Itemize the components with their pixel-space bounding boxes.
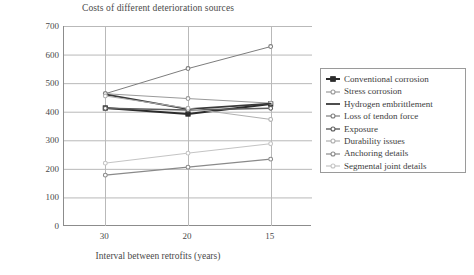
legend-swatch-graphic xyxy=(326,149,340,159)
legend-swatch-graphic xyxy=(326,161,340,171)
data-point-marker xyxy=(269,106,273,110)
legend-marker xyxy=(331,139,335,143)
data-point-marker xyxy=(186,112,190,116)
data-point-marker xyxy=(186,106,190,110)
y-tick-label: 600 xyxy=(25,50,59,60)
x-axis-title: Interval between retrofits (years) xyxy=(0,251,316,261)
legend-item-label: Conventional corrosion xyxy=(344,73,429,85)
legend-line-swatch-icon xyxy=(326,149,340,159)
legend-marker xyxy=(331,90,335,94)
legend-swatch-graphic xyxy=(326,136,340,146)
legend-line-swatch-icon xyxy=(326,111,340,121)
legend-item-label: Loss of tendon force xyxy=(344,110,418,122)
legend-line-swatch-icon xyxy=(326,136,340,146)
legend-item[interactable]: Stress corrosion xyxy=(326,85,460,97)
y-tick-label: 500 xyxy=(25,78,59,88)
chart-legend: Conventional corrosionStress corrosionHy… xyxy=(320,68,466,173)
x-tick-label: 15 xyxy=(265,231,274,241)
legend-item[interactable]: Segmental joint details xyxy=(326,160,460,172)
y-tick-label: 700 xyxy=(25,21,59,31)
data-point-marker xyxy=(269,118,273,122)
legend-line-swatch-icon xyxy=(326,124,340,134)
legend-item-label: Hydrogen embrittlement xyxy=(344,98,433,110)
data-point-marker xyxy=(103,173,107,177)
y-tick-label: 0 xyxy=(25,221,59,231)
data-point-marker xyxy=(186,165,190,169)
data-point-marker xyxy=(186,97,190,101)
x-tick-label: 30 xyxy=(100,231,109,241)
legend-item-label: Durability issues xyxy=(344,135,405,147)
legend-item-label: Exposure xyxy=(344,123,378,135)
data-point-marker xyxy=(103,106,107,110)
legend-marker xyxy=(331,77,336,82)
legend-marker xyxy=(331,127,335,131)
legend-marker xyxy=(331,152,335,156)
legend-item[interactable]: Loss of tendon force xyxy=(326,110,460,122)
data-point-marker xyxy=(269,45,273,49)
legend-item-label: Stress corrosion xyxy=(344,85,402,97)
x-tick-label: 20 xyxy=(183,231,192,241)
legend-item[interactable]: Conventional corrosion xyxy=(326,73,460,85)
legend-swatch-graphic xyxy=(326,87,340,97)
plot-area xyxy=(63,26,311,226)
data-point-marker xyxy=(186,67,190,71)
data-point-marker xyxy=(269,157,273,161)
data-point-marker xyxy=(186,151,190,155)
legend-swatch-graphic xyxy=(326,74,340,84)
legend-swatch-graphic xyxy=(326,111,340,121)
legend-marker xyxy=(331,114,335,118)
legend-line-swatch-icon xyxy=(326,99,340,109)
legend-swatch-graphic xyxy=(326,99,340,109)
chart-root: Costs of different deterioration sources… xyxy=(0,0,474,275)
y-tick-label: 400 xyxy=(25,107,59,117)
legend-swatch-graphic xyxy=(326,124,340,134)
y-tick-label: 200 xyxy=(25,164,59,174)
y-tick-label: 100 xyxy=(25,192,59,202)
legend-marker xyxy=(331,164,335,168)
y-axis-tick-labels: 0100200300400500600700 xyxy=(22,26,59,226)
legend-line-swatch-icon xyxy=(326,161,340,171)
data-point-marker xyxy=(269,142,273,146)
plot-canvas xyxy=(64,26,312,226)
data-point-marker xyxy=(103,94,107,98)
legend-item[interactable]: Exposure xyxy=(326,123,460,135)
legend-item-label: Anchoring details xyxy=(344,147,408,159)
legend-line-swatch-icon xyxy=(326,87,340,97)
legend-item[interactable]: Hydrogen embrittlement xyxy=(326,98,460,110)
legend-item[interactable]: Anchoring details xyxy=(326,147,460,159)
y-tick-label: 300 xyxy=(25,135,59,145)
chart-title: Costs of different deterioration sources xyxy=(0,3,316,13)
legend-item-label: Segmental joint details xyxy=(344,160,427,172)
data-point-marker xyxy=(103,161,107,165)
legend-item[interactable]: Durability issues xyxy=(326,135,460,147)
x-axis-tick-labels: 302015 xyxy=(63,231,311,245)
legend-line-swatch-icon xyxy=(326,74,340,84)
